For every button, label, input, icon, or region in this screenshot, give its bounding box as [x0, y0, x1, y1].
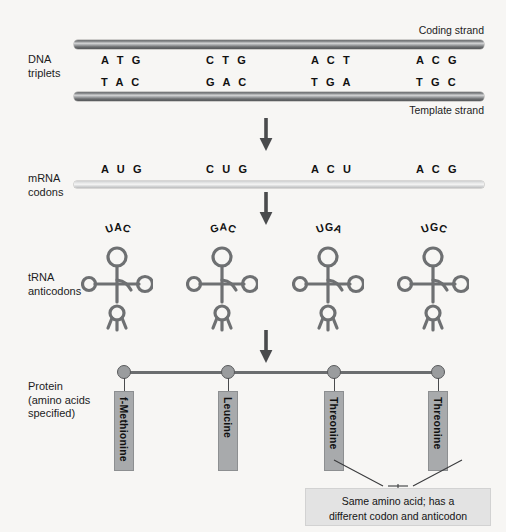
- amino-acid-stem-3: [334, 378, 336, 392]
- dna-template-triplet-1: T A C: [101, 76, 142, 88]
- amino-acid-label-4: Threonine: [432, 397, 444, 450]
- dna-coding-strand-bar: [74, 40, 484, 49]
- amino-acid-node-3: [327, 365, 341, 379]
- annotation-line-2: different codon and anticodon: [306, 509, 490, 524]
- svg-text:GAC: GAC: [208, 222, 238, 235]
- transcription-arrow-icon: [257, 118, 275, 152]
- anticodon-text-3: UGA: [314, 222, 344, 235]
- dna-coding-triplet-3: A C T: [311, 54, 352, 66]
- coding-strand-label: Coding strand: [304, 24, 484, 36]
- mrna-strand-bar: [74, 181, 484, 188]
- amino-acid-node-2: [221, 365, 235, 379]
- dna-coding-triplet-4: A C G: [416, 54, 459, 66]
- amino-acid-label-3: Threonine: [328, 397, 340, 450]
- annotation-callout: Same amino acid; has a different codon a…: [305, 488, 491, 526]
- anticodon-text-2: GAC: [208, 222, 238, 235]
- anticodon-text-4: UGC: [419, 222, 449, 235]
- svg-text:UGA: UGA: [314, 222, 344, 235]
- amino-acid-stem-4: [438, 378, 440, 392]
- svg-text:UGC: UGC: [419, 222, 449, 235]
- mrna-codon-3: A C U: [311, 163, 354, 175]
- amino-acid-node-4: [431, 365, 445, 379]
- trna-molecule-3: [292, 240, 364, 332]
- protein-row-label: Protein (amino acids specified): [28, 380, 90, 421]
- dna-template-triplet-2: G A C: [206, 76, 249, 88]
- callout-leader-lines: [330, 458, 466, 490]
- trna-molecule-2: [186, 240, 258, 332]
- mrna-codon-4: A C G: [416, 163, 459, 175]
- mrna-codon-2: C U G: [206, 163, 250, 175]
- amino-acid-box-2: Leucine: [218, 391, 238, 471]
- dna-row-label: DNA triplets: [28, 53, 60, 80]
- peptide-backbone: [124, 371, 438, 374]
- amino-acid-node-1: [117, 365, 131, 379]
- protein-arrow-icon: [257, 330, 275, 364]
- amino-acid-label-2: Leucine: [222, 397, 234, 438]
- trna-molecule-4: [397, 240, 469, 332]
- trna-row-label: tRNA anticodons: [28, 271, 81, 298]
- mrna-codon-1: A U G: [101, 163, 144, 175]
- mrna-row-label: mRNA codons: [28, 172, 63, 199]
- annotation-line-1: Same amino acid; has a: [306, 494, 490, 509]
- amino-acid-label-1: f-Methionine: [118, 397, 130, 462]
- dna-template-strand-bar: [74, 92, 484, 101]
- dna-coding-triplet-1: A T G: [101, 54, 143, 66]
- amino-acid-box-1: f-Methionine: [114, 391, 134, 471]
- figure-canvas: Coding strand A T G C T G A C T A C G T …: [0, 0, 506, 532]
- dna-coding-triplet-2: C T G: [206, 54, 248, 66]
- dna-template-triplet-3: T G A: [311, 76, 353, 88]
- template-strand-label: Template strand: [304, 104, 484, 116]
- anticodon-text-1: UAC: [104, 222, 133, 235]
- dna-template-triplet-4: T G C: [416, 76, 458, 88]
- amino-acid-stem-1: [124, 378, 126, 392]
- translation-arrow-icon: [257, 192, 275, 226]
- trna-molecule-1: [81, 240, 153, 332]
- svg-text:UAC: UAC: [104, 222, 133, 235]
- amino-acid-stem-2: [228, 378, 230, 392]
